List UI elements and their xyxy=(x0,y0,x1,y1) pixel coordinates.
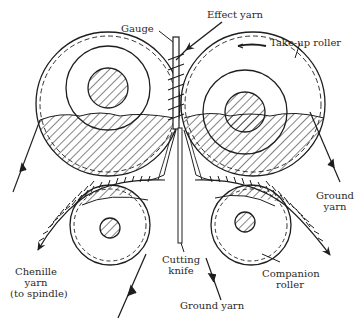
companion-roller-left xyxy=(70,180,150,265)
cutting-knife-leader xyxy=(181,243,184,252)
label-ground-yarn-bottom: Ground yarn xyxy=(180,300,244,311)
take-up-roller-right xyxy=(181,32,325,180)
label-cutting-knife: Cutting knife xyxy=(160,254,202,276)
ground-yarn-left-path xyxy=(13,120,40,192)
take-up-roller-left xyxy=(36,32,180,180)
gauge-leader xyxy=(159,31,173,42)
label-ground-yarn-right: Ground yarn xyxy=(315,190,355,212)
ground-yarn-bottom-path-2 xyxy=(206,258,221,300)
label-effect-yarn: Effect yarn xyxy=(207,9,263,20)
label-companion-roller: Companion roller xyxy=(262,268,318,290)
label-chenille-yarn: Chenille yarn (to spindle) xyxy=(10,266,62,299)
label-take-up-roller: Take-up roller xyxy=(270,37,341,48)
cutting-knife xyxy=(178,128,182,243)
ground-yarn-right-path xyxy=(310,112,340,182)
diagram-canvas: Gauge Effect yarn Take-up roller Ground … xyxy=(0,0,361,321)
label-gauge: Gauge xyxy=(121,23,154,34)
